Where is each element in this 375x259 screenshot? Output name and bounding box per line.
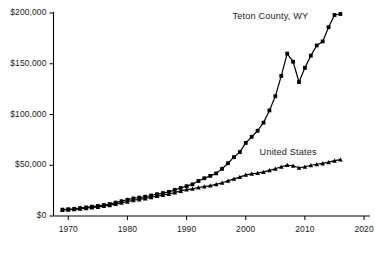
series-label-2: United States: [242, 147, 334, 157]
x-axis-tick-label: 2010: [291, 224, 319, 234]
series-data-point: [238, 150, 242, 154]
series-data-point: [250, 135, 254, 139]
chart-series-lines: [60, 12, 343, 212]
series-data-point: [220, 167, 224, 171]
series-data-point: [226, 161, 230, 165]
series-data-point: [309, 54, 313, 58]
series-data-point: [208, 174, 212, 178]
y-axis-tick-label: $0: [37, 210, 47, 220]
x-axis-tick-label: 2020: [350, 224, 375, 234]
x-axis-tick-label: 1990: [173, 224, 201, 234]
series-data-point: [244, 141, 248, 145]
y-axis-tick-label: $100,000: [10, 109, 46, 119]
series-data-point: [303, 66, 307, 70]
series-data-point: [191, 182, 195, 186]
series-data-point: [268, 109, 272, 113]
y-axis-tick-label: $50,000: [15, 159, 46, 169]
income-per-capita-chart: $0$50,000$100,000$150,000$200,000 197019…: [0, 0, 375, 259]
series-data-point: [256, 129, 260, 133]
chart-plot-area: [0, 0, 375, 259]
y-axis-tick-label: $200,000: [10, 7, 46, 17]
series-data-point: [297, 80, 301, 84]
x-axis-tick-label: 1970: [54, 224, 82, 234]
chart-series-1: [60, 12, 342, 211]
x-axis-tick-label: 1980: [113, 224, 141, 234]
series-data-point: [202, 176, 206, 180]
y-axis-tick-label: $150,000: [10, 58, 46, 68]
series-data-point: [214, 171, 218, 175]
series-data-point: [339, 12, 343, 16]
series-data-point: [262, 121, 266, 125]
series-data-point: [327, 25, 331, 29]
series-data-point: [285, 52, 289, 56]
series-data-point: [197, 179, 201, 183]
series-data-point: [279, 74, 283, 78]
series-data-point: [291, 60, 295, 64]
series-data-point: [333, 13, 337, 17]
series-label-1: Teton County, WY: [224, 11, 316, 21]
series-data-point: [232, 155, 236, 159]
series-data-point: [315, 44, 319, 48]
series-data-point: [273, 94, 277, 98]
x-axis-tick-label: 2000: [232, 224, 260, 234]
series-line: [62, 14, 340, 210]
series-data-point: [321, 40, 325, 44]
